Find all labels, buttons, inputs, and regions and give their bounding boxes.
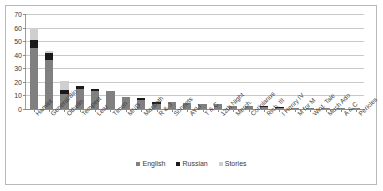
x-axis-label-slot: A & C bbox=[333, 110, 348, 158]
bar-column[interactable] bbox=[195, 14, 210, 109]
legend-label: Stories bbox=[225, 160, 247, 168]
y-axis-tick-label: 60 bbox=[2, 24, 25, 31]
legend-swatch-icon bbox=[136, 162, 140, 166]
x-axis-label-slot: R & J bbox=[148, 110, 163, 158]
y-axis-tick-label: 0 bbox=[2, 106, 25, 113]
bar-column[interactable] bbox=[41, 14, 56, 109]
x-axis-label-slot: Tempest bbox=[71, 110, 86, 158]
x-axis-label-slot: AYLI bbox=[179, 110, 194, 158]
x-axis-label-slot: Timon bbox=[102, 110, 117, 158]
x-axis-label-slot: Sonnets bbox=[164, 110, 179, 158]
bar-column[interactable] bbox=[26, 14, 41, 109]
legend-swatch-icon bbox=[176, 162, 180, 166]
y-axis-tick-label: 70 bbox=[2, 11, 25, 18]
legend-item[interactable]: Russian bbox=[176, 160, 207, 168]
y-axis-tick-label: 40 bbox=[2, 51, 25, 58]
x-axis-label-slot: M for M bbox=[287, 110, 302, 158]
bar-segment-stories[interactable] bbox=[30, 28, 38, 40]
bar-column[interactable] bbox=[349, 14, 364, 109]
legend-item[interactable]: Stories bbox=[219, 160, 247, 168]
x-axis-label-slot: Rich. III bbox=[256, 110, 271, 158]
bar-column[interactable] bbox=[87, 14, 102, 109]
x-axis-label-slot: Merch. bbox=[225, 110, 240, 158]
x-axis-label-slot: Macbeth bbox=[133, 110, 148, 158]
x-axis-label-slot: Wint. Tale bbox=[302, 110, 317, 158]
bar-column[interactable] bbox=[134, 14, 149, 109]
legend-label: English bbox=[142, 160, 165, 168]
bar-segment-stories[interactable] bbox=[60, 81, 68, 91]
x-axis-label-slot: 12th Night bbox=[210, 110, 225, 158]
bar-column[interactable] bbox=[149, 14, 164, 109]
y-axis-tick-label: 50 bbox=[2, 38, 25, 45]
y-axis-tick-label: 20 bbox=[2, 78, 25, 85]
chart-container: 706050403020100 HamletGeneral/BioOthello… bbox=[0, 0, 383, 191]
x-axis-label-slot: Othello bbox=[56, 110, 71, 158]
y-axis-tick-label: 10 bbox=[2, 92, 25, 99]
x-axis-label-slot: Pericles bbox=[349, 110, 364, 158]
bar-series-group bbox=[26, 14, 364, 109]
x-axis-label-slot: T & C bbox=[194, 110, 209, 158]
chart-legend: EnglishRussianStories bbox=[0, 160, 383, 168]
x-axis-label-slot: MND bbox=[117, 110, 132, 158]
legend-item[interactable]: English bbox=[136, 160, 165, 168]
x-axis-label-slot: Coriolanus bbox=[241, 110, 256, 158]
bar-column[interactable] bbox=[118, 14, 133, 109]
x-axis-label-slot: Hamlet bbox=[25, 110, 40, 158]
x-axis-label-slot: Much Ado bbox=[318, 110, 333, 158]
y-axis-tick-label: 30 bbox=[2, 65, 25, 72]
bar-segment-english[interactable] bbox=[30, 48, 38, 109]
legend-swatch-icon bbox=[219, 162, 223, 166]
bar-column[interactable] bbox=[103, 14, 118, 109]
bar-column[interactable] bbox=[164, 14, 179, 109]
x-axis-label-slot: Lear bbox=[87, 110, 102, 158]
legend-label: Russian bbox=[182, 160, 207, 168]
bar-segment-russian[interactable] bbox=[30, 40, 38, 48]
x-axis-labels: HamletGeneral/BioOthelloTempestLearTimon… bbox=[25, 110, 364, 158]
bar-column[interactable] bbox=[210, 14, 225, 109]
bar-column[interactable] bbox=[302, 14, 317, 109]
bar-stack[interactable] bbox=[30, 28, 38, 109]
x-axis-label-slot: I Henry IV bbox=[272, 110, 287, 158]
x-axis-label-slot: General/Bio bbox=[40, 110, 55, 158]
bar-segment-russian[interactable] bbox=[45, 53, 53, 60]
